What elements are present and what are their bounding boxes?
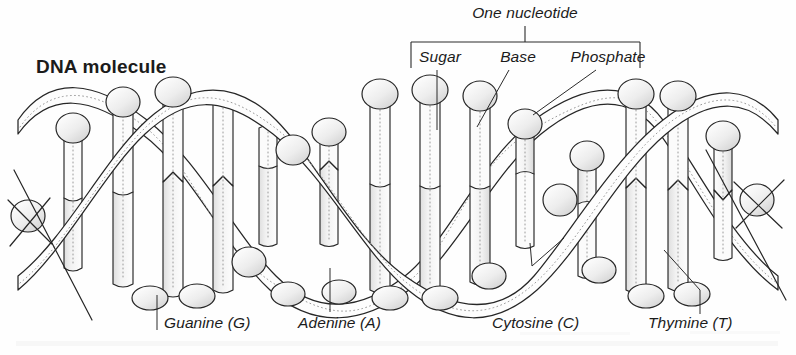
sugar-label: Sugar bbox=[419, 48, 462, 65]
cytosine-label: Cytosine (C) bbox=[492, 314, 579, 331]
dna-molecule-figure: One nucleotide Sugar Base Phosphate Guan… bbox=[0, 0, 796, 355]
thymine-label: Thymine (T) bbox=[648, 314, 733, 331]
base-pair-rungs bbox=[64, 91, 732, 297]
base-pair-rung bbox=[163, 91, 183, 297]
base-pair-rung bbox=[64, 128, 82, 272]
guanine-label: Guanine (G) bbox=[164, 314, 250, 331]
one-nucleotide-label: One nucleotide bbox=[472, 4, 578, 21]
base-pair-rung bbox=[714, 138, 732, 261]
scan-artifact bbox=[16, 331, 780, 346]
phosphate-label: Phosphate bbox=[570, 48, 645, 65]
base-labels: Guanine (G) Adenine (A) Cytosine (C) Thy… bbox=[164, 314, 733, 331]
adenine-label: Adenine (A) bbox=[297, 314, 381, 331]
base-pair-rung bbox=[113, 101, 133, 287]
base-pair-rung bbox=[213, 97, 233, 293]
nucleotide-part-labels: Sugar Base Phosphate bbox=[419, 48, 646, 65]
base-pair-rung bbox=[516, 126, 534, 249]
page-title: DNA molecule bbox=[36, 56, 167, 77]
base-pair-rung bbox=[259, 126, 277, 247]
base-pair-rung bbox=[626, 95, 646, 293]
dna-diagram-canvas: One nucleotide Sugar Base Phosphate Guan… bbox=[0, 0, 796, 355]
base-pair-rung bbox=[470, 97, 490, 285]
dna-helix bbox=[8, 75, 786, 320]
base-label: Base bbox=[500, 48, 536, 65]
